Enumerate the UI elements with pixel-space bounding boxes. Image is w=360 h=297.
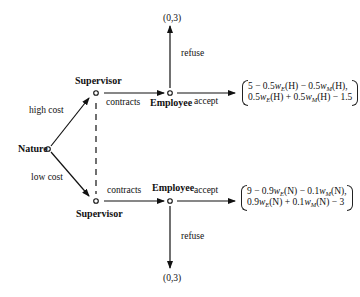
accept-high-label: accept <box>194 97 218 107</box>
right-paren <box>347 185 353 211</box>
right-paren <box>352 80 358 106</box>
accept-high-payoff: 5 − 0.5wE(H) − 0.5wM(H), 0.5wE(H) + 0.5w… <box>248 82 352 104</box>
refuse-low-payoff: (0,3) <box>163 274 181 284</box>
accept-low-label: accept <box>194 186 218 196</box>
node-employee-low <box>168 199 173 204</box>
node-supervisor-high <box>94 91 99 96</box>
refuse-high-label: refuse <box>181 49 204 59</box>
low-cost-label: low cost <box>31 173 63 183</box>
node-supervisor-low <box>94 199 99 204</box>
refuse-high-payoff: (0,3) <box>163 14 181 24</box>
left-paren <box>242 80 248 106</box>
left-paren <box>241 185 247 211</box>
node-employee-high <box>168 91 173 96</box>
contracts-low-label: contracts <box>107 186 141 196</box>
game-tree-edges <box>0 0 360 297</box>
employee-low-label: Employee <box>152 183 194 193</box>
payoff-line-2: 0.5wE(H) + 0.5wM(H) − 1.5 <box>248 93 352 104</box>
employee-high-label: Employee <box>150 98 192 108</box>
supervisor-high-label: Supervisor <box>75 76 122 86</box>
accept-low-payoff: 9 − 0.9wE(N) − 0.1wM(N), 0.9wE(N) + 0.1w… <box>247 187 347 209</box>
refuse-low-label: refuse <box>181 232 204 242</box>
nature-label: Nature <box>18 144 48 154</box>
payoff-line-2: 0.9wE(N) + 0.1wM(N) − 3 <box>247 198 347 209</box>
contracts-high-label: contracts <box>106 98 140 108</box>
high-cost-label: high cost <box>29 106 64 116</box>
supervisor-low-label: Supervisor <box>76 209 123 219</box>
